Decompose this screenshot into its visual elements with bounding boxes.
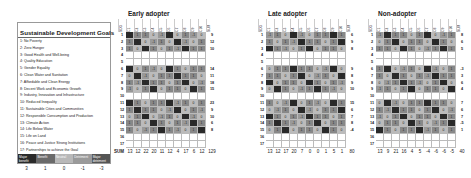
heatmap-cell <box>322 141 330 148</box>
heatmap-cell <box>408 141 416 148</box>
heatmap-cell: 1 <box>182 100 190 107</box>
heatmap-cell <box>198 141 206 148</box>
row-sum: 10 <box>346 86 358 93</box>
row-number: 1 <box>368 32 376 39</box>
heatmap-cell: 1 <box>424 86 432 93</box>
heatmap-cell: 0 <box>448 80 456 87</box>
heatmap-cell <box>274 134 282 141</box>
heatmap-cell: 1 <box>322 114 330 121</box>
heatmap-cell: 1 <box>134 114 142 121</box>
heatmap-cell: 1 <box>190 127 198 134</box>
heatmap-cell: 1 <box>158 120 166 127</box>
column-sum: 17 <box>182 148 190 156</box>
heatmap-cell: 1 <box>134 32 142 39</box>
row-sum: 9 <box>206 107 218 114</box>
heatmap-cell: 3 <box>338 73 346 80</box>
heatmap-cell <box>166 134 174 141</box>
row-sum: 1 <box>456 127 468 134</box>
heatmap-cell <box>150 52 158 59</box>
goal-item: 16: Peace and Justice Strong Institution… <box>18 140 110 147</box>
heatmap-cell: 0 <box>408 114 416 121</box>
heatmap-cell: 3 <box>400 80 408 87</box>
heatmap-cell <box>432 141 440 148</box>
heatmap-cell: 0 <box>448 100 456 107</box>
heatmap-cell: 1 <box>150 100 158 107</box>
heatmap-cell: 3 <box>166 100 174 107</box>
heatmap-cell: 1 <box>282 86 290 93</box>
heatmap-cell: -1 <box>198 80 206 87</box>
heatmap-cell: 1 <box>330 80 338 87</box>
heatmap-cell: 3 <box>190 86 198 93</box>
heatmap-cell: 1 <box>384 120 392 127</box>
heatmap-cell: 1 <box>158 80 166 87</box>
heatmap-cell: 0 <box>198 73 206 80</box>
heatmap-cell: -1 <box>182 120 190 127</box>
heatmap-cell: -1 <box>190 114 198 121</box>
heatmap-cell: -1 <box>282 100 290 107</box>
heatmap-cell <box>190 141 198 148</box>
column-header: C4 <box>150 19 158 32</box>
heatmap-cell: 1 <box>198 39 206 46</box>
heatmap-cell <box>330 93 338 100</box>
row-sum: -4 <box>346 127 358 134</box>
heatmap-cell: 1 <box>166 127 174 134</box>
heatmap-cell: 1 <box>298 127 306 134</box>
heatmap-cell: 1 <box>290 73 298 80</box>
row-sum <box>346 52 358 59</box>
legend-swatch: Benefit <box>36 154 54 163</box>
heatmap-cell: -1 <box>174 100 182 107</box>
heatmap-cell: 0 <box>142 39 150 46</box>
heatmap-cell <box>314 141 322 148</box>
heatmap-cell <box>400 52 408 59</box>
heatmap-cell: 1 <box>416 120 424 127</box>
heatmap-cell: 1 <box>282 120 290 127</box>
heatmap-cell: 1 <box>400 32 408 39</box>
row-number: 6 <box>258 66 266 73</box>
row-sum: 5 <box>456 46 468 53</box>
heatmap-cell <box>198 134 206 141</box>
legend-value: -1 <box>73 166 92 171</box>
heatmap-cell: -1 <box>142 127 150 134</box>
heatmap-cell <box>416 59 424 66</box>
column-header: C5 <box>298 19 306 32</box>
column-sum: 4 <box>408 148 416 156</box>
row-sum: 15 <box>206 86 218 93</box>
heatmap-cell: 3 <box>440 114 448 121</box>
row-sum: 8 <box>346 73 358 80</box>
heatmap-cell: 1 <box>266 100 274 107</box>
column-header: C3 <box>282 19 290 32</box>
heatmap-cell <box>306 141 314 148</box>
heatmap-cell: 1 <box>330 39 338 46</box>
heatmap-cell: 1 <box>408 127 416 134</box>
row-sum: 10 <box>206 114 218 121</box>
heatmap-cell <box>424 59 432 66</box>
column-sum: -6 <box>432 148 440 156</box>
legend-swatch: Detriment <box>73 154 91 163</box>
heatmap-cell: 1 <box>274 66 282 73</box>
heatmap-cell <box>182 59 190 66</box>
heatmap-cell: 1 <box>174 120 182 127</box>
heatmap-cell: 3 <box>198 127 206 134</box>
heatmap-cell: 0 <box>440 86 448 93</box>
heatmap-cell <box>440 59 448 66</box>
heatmap-cell: 0 <box>158 66 166 73</box>
heatmap-cell: 1 <box>440 100 448 107</box>
column-sum: 0 <box>314 148 322 156</box>
heatmap-cell <box>424 52 432 59</box>
heatmap-cell: 3 <box>298 73 306 80</box>
total-sum: 80 <box>346 148 358 156</box>
heatmap-cell: 1 <box>440 73 448 80</box>
column-sum: 22 <box>142 148 150 156</box>
row-sum: 18 <box>206 80 218 87</box>
heatmap-cell: 1 <box>440 120 448 127</box>
heatmap-cell <box>440 93 448 100</box>
heatmap-cell: 1 <box>424 114 432 121</box>
column-header: C7 <box>174 19 182 32</box>
heatmap-cell: 1 <box>134 120 142 127</box>
heatmap-cell <box>440 141 448 148</box>
panel-title: Non-adopter <box>368 10 468 19</box>
heatmap-cell: 1 <box>314 80 322 87</box>
row-number: 6 <box>118 66 126 73</box>
row-sum: 6 <box>456 80 468 87</box>
heatmap-cell: 0 <box>440 66 448 73</box>
